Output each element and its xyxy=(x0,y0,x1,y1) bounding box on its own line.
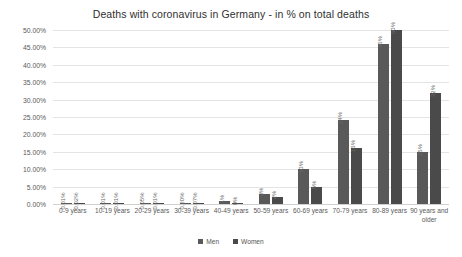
plot-area: 0.01%0.02%0.01%0.01%0.05%0.01%0.20%0.07%… xyxy=(53,30,449,204)
bar-group: 0.05%0.01% xyxy=(132,30,172,204)
bar-women[interactable]: 16% xyxy=(351,148,362,204)
bar-women[interactable]: 0.01% xyxy=(113,203,124,204)
x-axis-tick-label: 30-39 years xyxy=(172,206,212,215)
chart-container: Deaths with coronavirus in Germany - in … xyxy=(0,0,462,257)
bar-wrapper: 0.07% xyxy=(193,30,204,204)
x-axis-tick-label: 50-59 years xyxy=(251,206,291,215)
bar-value-label: 15% xyxy=(417,144,423,156)
bar-men[interactable]: 24% xyxy=(338,120,349,204)
bar-wrapper: 46% xyxy=(378,30,389,204)
bar-wrapper: 0% xyxy=(232,30,243,204)
bar-women[interactable]: 0.02% xyxy=(74,203,85,204)
bar-women[interactable]: 32% xyxy=(430,93,441,204)
x-axis-tick-label: 40-49 years xyxy=(211,206,251,215)
bar-wrapper: 0.20% xyxy=(180,30,191,204)
bar-women[interactable]: 0.07% xyxy=(193,203,204,204)
bar-wrapper: 2% xyxy=(272,30,283,204)
bar-wrapper: 16% xyxy=(351,30,362,204)
y-axis: 0.00%5.00%10.00%15.00%20.00%25.00%30.00%… xyxy=(0,30,50,204)
bar-wrapper: 32% xyxy=(430,30,441,204)
bar-wrapper: 10% xyxy=(298,30,309,204)
bar-men[interactable]: 3% xyxy=(259,194,270,204)
legend-swatch-icon xyxy=(198,239,203,244)
y-axis-tick-label: 25.00% xyxy=(23,114,46,121)
bar-value-label: 24% xyxy=(337,112,343,124)
bar-value-label: 0% xyxy=(232,197,238,206)
x-axis-tick-label: 60-69 years xyxy=(291,206,331,215)
bar-value-label: 3% xyxy=(258,187,264,196)
bar-men[interactable]: 0.20% xyxy=(180,203,191,204)
bar-wrapper: 0.02% xyxy=(74,30,85,204)
bar-wrapper: 0.01% xyxy=(100,30,111,204)
chart-legend: MenWomen xyxy=(0,238,462,245)
bar-value-label: 1% xyxy=(219,194,225,203)
bar-women[interactable]: 5% xyxy=(311,187,322,204)
bar-wrapper: 50% xyxy=(391,30,402,204)
y-axis-tick-label: 40.00% xyxy=(23,61,46,68)
y-axis-tick-label: 0.00% xyxy=(27,201,46,208)
y-axis-tick-label: 35.00% xyxy=(23,79,46,86)
y-axis-tick-label: 15.00% xyxy=(23,148,46,155)
bar-group: 0.01%0.02% xyxy=(53,30,93,204)
y-axis-tick-label: 5.00% xyxy=(27,183,46,190)
y-axis-tick-label: 50.00% xyxy=(23,27,46,34)
bar-value-label: 16% xyxy=(350,140,356,152)
bar-wrapper: 0.05% xyxy=(140,30,151,204)
bar-men[interactable]: 0.01% xyxy=(100,203,111,204)
bar-men[interactable]: 46% xyxy=(378,44,389,204)
legend-label: Men xyxy=(206,238,219,245)
bar-women[interactable]: 0.01% xyxy=(153,203,164,204)
bar-group: 46%50% xyxy=(370,30,410,204)
bar-group: 15%32% xyxy=(409,30,449,204)
bar-value-label: 32% xyxy=(430,85,436,97)
y-axis-tick-label: 45.00% xyxy=(23,44,46,51)
bar-women[interactable]: 0% xyxy=(232,203,243,204)
bar-wrapper: 0.01% xyxy=(113,30,124,204)
bar-value-label: 2% xyxy=(271,191,277,200)
bar-men[interactable]: 15% xyxy=(417,152,428,204)
legend-label: Women xyxy=(241,238,264,245)
x-axis-tick-label: 0-9 years xyxy=(53,206,93,215)
bar-wrapper: 24% xyxy=(338,30,349,204)
bar-wrapper: 5% xyxy=(311,30,322,204)
bar-value-label: 46% xyxy=(377,36,383,48)
bar-group: 1%0% xyxy=(211,30,251,204)
legend-item-men[interactable]: Men xyxy=(198,238,219,245)
x-axis-tick-label: 20-29 years xyxy=(132,206,172,215)
bar-wrapper: 3% xyxy=(259,30,270,204)
x-axis-tick-label: 10-19 years xyxy=(93,206,133,215)
bars-layer: 0.01%0.02%0.01%0.01%0.05%0.01%0.20%0.07%… xyxy=(53,30,449,204)
bar-wrapper: 0.01% xyxy=(61,30,72,204)
bar-men[interactable]: 0.01% xyxy=(61,203,72,204)
bar-value-label: 5% xyxy=(311,180,317,189)
x-axis-tick-label: 90 years and older xyxy=(409,206,449,224)
x-axis: 0-9 years10-19 years20-29 years30-39 yea… xyxy=(53,206,449,236)
bar-group: 0.20%0.07% xyxy=(172,30,212,204)
y-axis-tick-label: 20.00% xyxy=(23,131,46,138)
y-axis-tick-label: 30.00% xyxy=(23,96,46,103)
bar-group: 0.01%0.01% xyxy=(93,30,133,204)
bar-group: 10%5% xyxy=(291,30,331,204)
y-axis-tick-label: 10.00% xyxy=(23,166,46,173)
bar-women[interactable]: 50% xyxy=(391,30,402,204)
bar-group: 24%16% xyxy=(330,30,370,204)
bar-wrapper: 1% xyxy=(219,30,230,204)
bar-group: 3%2% xyxy=(251,30,291,204)
bar-men[interactable]: 10% xyxy=(298,169,309,204)
legend-swatch-icon xyxy=(233,239,238,244)
bar-value-label: 10% xyxy=(298,161,304,173)
chart-title: Deaths with coronavirus in Germany - in … xyxy=(0,8,462,20)
bar-wrapper: 15% xyxy=(417,30,428,204)
bar-men[interactable]: 1% xyxy=(219,201,230,204)
x-axis-tick-label: 70-79 years xyxy=(330,206,370,215)
bar-women[interactable]: 2% xyxy=(272,197,283,204)
x-axis-tick-label: 80-89 years xyxy=(370,206,410,215)
bar-value-label: 50% xyxy=(390,22,396,34)
bar-wrapper: 0.01% xyxy=(153,30,164,204)
bar-men[interactable]: 0.05% xyxy=(140,203,151,204)
legend-item-women[interactable]: Women xyxy=(233,238,264,245)
